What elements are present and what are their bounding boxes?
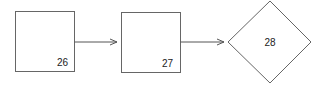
- node-label: 26: [57, 57, 69, 68]
- node-28: 28: [228, 1, 311, 83]
- node-label: 28: [264, 37, 276, 48]
- node-27: 27: [122, 13, 181, 73]
- node-26: 26: [16, 12, 75, 72]
- flow-diagram: 26 27 28: [0, 0, 324, 88]
- node-label: 27: [162, 58, 174, 69]
